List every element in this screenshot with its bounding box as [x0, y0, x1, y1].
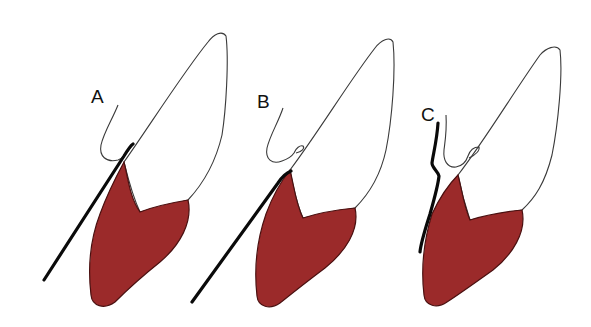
- label-c: C: [421, 104, 435, 125]
- tooth-crown-b: [290, 39, 394, 218]
- label-b: B: [257, 91, 270, 112]
- gingiva-b: [267, 108, 304, 162]
- periodontal-probing-diagram: A B C: [0, 0, 591, 327]
- label-a: A: [91, 86, 104, 107]
- panel-a: A: [44, 33, 227, 306]
- tooth-crown-c: [458, 47, 561, 220]
- tooth-crown-a: [124, 33, 227, 212]
- panel-c: C: [420, 47, 561, 306]
